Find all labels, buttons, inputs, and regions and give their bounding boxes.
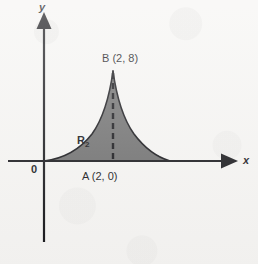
y-axis-arrowhead [37, 12, 52, 29]
region-label-subscript: 2 [85, 140, 89, 149]
region-label-r2: R2 [77, 134, 89, 149]
region-label-base: R [77, 134, 85, 146]
plot-svg [0, 0, 258, 264]
x-axis-arrowhead [221, 154, 238, 169]
x-axis-label: x [243, 154, 249, 166]
figure-canvas: y x 0 B (2, 8) A (2, 0) R2 [0, 0, 258, 264]
point-label-a: A (2, 0) [82, 170, 117, 182]
point-label-b: B (2, 8) [102, 52, 138, 64]
shaded-region-r2 [44, 71, 170, 161]
origin-label: 0 [31, 163, 37, 175]
y-axis-label: y [39, 1, 45, 13]
